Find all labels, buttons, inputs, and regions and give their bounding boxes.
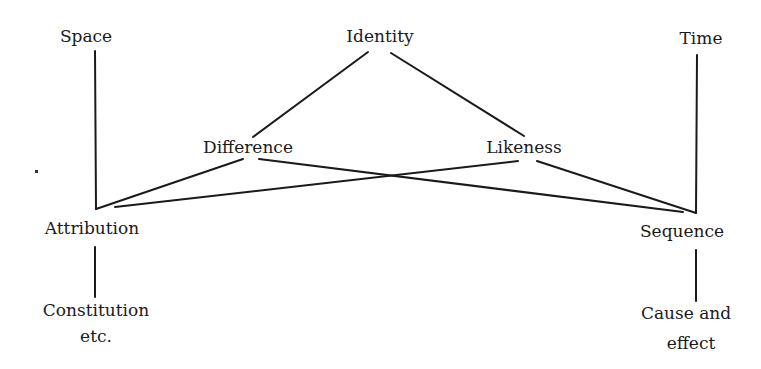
stray-dot xyxy=(35,170,38,173)
node-label: Identity xyxy=(346,26,413,46)
node-label: Constitution xyxy=(43,299,149,321)
edge-identity-likeness xyxy=(391,53,524,136)
node-label-line2: effect xyxy=(641,332,731,354)
node-space: Space xyxy=(60,25,112,47)
node-label: Time xyxy=(680,28,723,48)
node-constitution: Constitution etc. xyxy=(43,299,149,347)
node-attribution: Attribution xyxy=(45,217,140,239)
node-sequence: Sequence xyxy=(640,220,724,242)
node-difference: Difference xyxy=(203,136,293,158)
edge-identity-difference xyxy=(253,52,368,137)
concept-diagram: Space Identity Time Difference Likeness … xyxy=(0,0,761,369)
node-label: Space xyxy=(60,26,112,46)
node-label: Sequence xyxy=(640,221,724,241)
node-label-line2: etc. xyxy=(43,325,149,347)
edge-time-sequence xyxy=(696,55,697,213)
node-label: Difference xyxy=(203,137,293,157)
node-time: Time xyxy=(680,27,723,49)
node-likeness: Likeness xyxy=(486,136,562,158)
node-identity: Identity xyxy=(346,25,413,47)
node-label: Attribution xyxy=(45,218,140,238)
node-label: Cause and xyxy=(641,302,731,324)
edge-space-attribution xyxy=(95,51,96,209)
node-cause-and-effect: Cause and effect xyxy=(641,302,731,354)
node-label: Likeness xyxy=(486,137,562,157)
edge-likeness-sequence xyxy=(537,161,696,213)
